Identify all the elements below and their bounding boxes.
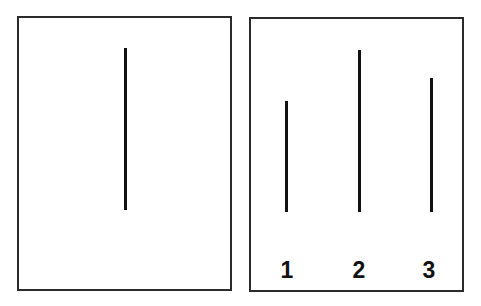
comparison-label-3: 3 (423, 259, 436, 282)
reference-line (124, 48, 127, 210)
comparison-line-2 (358, 50, 361, 212)
comparison-line-3 (430, 78, 433, 212)
comparison-label-2: 2 (353, 259, 366, 282)
comparison-label-1: 1 (281, 259, 294, 282)
comparison-card: 1 2 3 (249, 17, 464, 292)
reference-card (17, 16, 232, 291)
comparison-line-1 (285, 101, 288, 212)
